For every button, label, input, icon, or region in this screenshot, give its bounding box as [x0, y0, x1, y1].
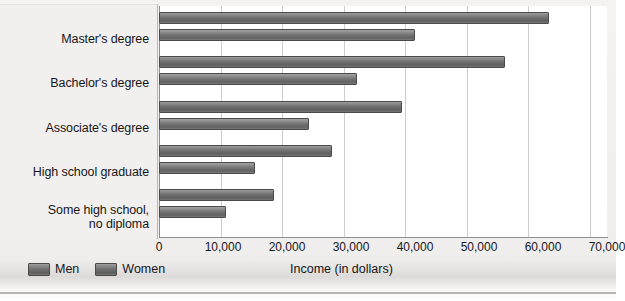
- x-tick-label: 20,000: [269, 240, 306, 254]
- x-tick-label: 70,000: [589, 240, 625, 254]
- category-label-line: Master's degree: [61, 32, 149, 46]
- x-tick-label: 40,000: [397, 240, 434, 254]
- category-label-line: Some high school,: [48, 203, 149, 217]
- bar-men-0: [159, 12, 549, 24]
- x-tick-label: 30,000: [333, 240, 370, 254]
- x-tick-label: 0: [156, 240, 163, 254]
- bar-men-1: [159, 56, 505, 68]
- category-label-bachelors: Bachelor's degree: [50, 77, 149, 91]
- bar-women-3: [159, 162, 255, 174]
- bar-women-1: [159, 73, 357, 85]
- category-label-line: no diploma: [89, 217, 149, 231]
- x-tick-label: 10,000: [205, 240, 242, 254]
- x-axis-line: [159, 237, 608, 238]
- bar-women-2: [159, 118, 309, 130]
- legend: Men Women: [28, 262, 165, 276]
- category-label-high-school-graduate: High school graduate: [33, 166, 149, 180]
- bar-women-4: [159, 206, 226, 218]
- legend-item-men: Men: [28, 262, 79, 276]
- category-label-line: Bachelor's degree: [50, 76, 149, 90]
- legend-label-women: Women: [122, 262, 165, 276]
- legend-swatch-women: [95, 263, 117, 276]
- page-bottom-rule: [0, 292, 616, 294]
- legend-label-men: Men: [55, 262, 79, 276]
- x-tick-label: 60,000: [525, 240, 562, 254]
- x-tick-label: 50,000: [461, 240, 498, 254]
- legend-swatch-men: [28, 263, 50, 276]
- bar-men-4: [159, 189, 274, 201]
- gridline: [528, 6, 529, 237]
- x-axis-title: Income (in dollars): [290, 262, 393, 276]
- category-label-some-high-school: Some high school, no diploma: [48, 204, 149, 231]
- category-label-line: Associate's degree: [46, 121, 149, 135]
- category-label-line: High school graduate: [33, 165, 149, 179]
- gridline: [590, 6, 591, 237]
- category-label-associates: Associate's degree: [46, 122, 149, 136]
- bar-men-3: [159, 145, 332, 157]
- bar-women-0: [159, 29, 415, 41]
- category-label-masters: Master's degree: [61, 33, 149, 47]
- legend-item-women: Women: [95, 262, 165, 276]
- gridline: [467, 6, 468, 237]
- category-label-panel: Master's degree Bachelor's degree Associ…: [0, 4, 158, 239]
- bar-men-2: [159, 101, 402, 113]
